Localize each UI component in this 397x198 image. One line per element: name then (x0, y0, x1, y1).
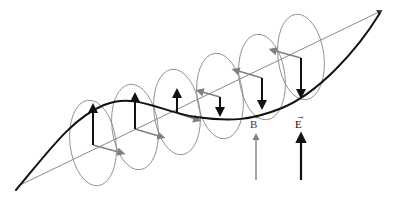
propagation-axis (18, 11, 381, 186)
electric-field-wave (16, 13, 380, 190)
wavefront-ellipse-group (65, 12, 329, 189)
em-wave-figure: → B → E (0, 0, 397, 198)
b-field-vector (93, 145, 122, 153)
b-field-vector (199, 91, 220, 97)
legend-b-label: → B (250, 113, 260, 130)
diagram-canvas (0, 0, 397, 198)
legend-e-label: → E (295, 113, 305, 130)
